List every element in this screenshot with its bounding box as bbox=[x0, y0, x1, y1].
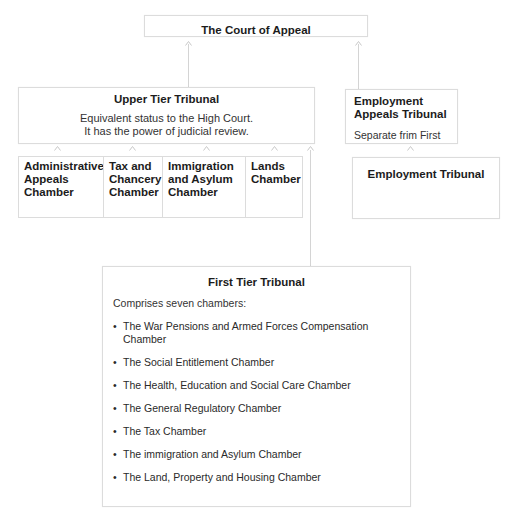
employment-appeals-tribunal-box: Employment Appeals Tribunal Separate fri… bbox=[345, 89, 458, 144]
connector-employment-appeals-to-court bbox=[358, 44, 359, 89]
list-item-text: The Tax Chamber bbox=[123, 425, 400, 438]
list-item-text: The immigration and Asylum Chamber bbox=[123, 448, 400, 461]
chamber-label-line: Administrative bbox=[24, 160, 103, 173]
list-item: • The Tax Chamber bbox=[113, 425, 400, 438]
employment-appeals-note: Separate frim First bbox=[354, 129, 457, 141]
chamber-label-line: Lands bbox=[251, 160, 302, 173]
chamber-label-line: Tax and bbox=[109, 160, 162, 173]
chamber-label-line: and Asylum bbox=[168, 173, 245, 186]
arrow-up-icon bbox=[203, 146, 210, 151]
chamber-administrative-appeals: Administrative Appeals Chamber bbox=[18, 156, 104, 218]
court-of-appeal-title: The Court of Appeal bbox=[201, 24, 310, 36]
arrow-up-icon bbox=[129, 146, 136, 151]
list-item: • The immigration and Asylum Chamber bbox=[113, 448, 400, 461]
bullet-icon: • bbox=[113, 320, 117, 333]
first-tier-intro: Comprises seven chambers: bbox=[113, 297, 400, 309]
employment-appeals-title-line1: Employment bbox=[354, 95, 457, 108]
bullet-icon: • bbox=[113, 471, 117, 484]
list-item: • The Social Entitlement Chamber bbox=[113, 356, 400, 369]
chamber-label-line: Chamber bbox=[168, 186, 245, 199]
arrow-up-icon bbox=[407, 146, 414, 151]
list-item: • The War Pensions and Armed Forces Comp… bbox=[113, 320, 400, 346]
chamber-label-line: Appeals bbox=[24, 173, 103, 186]
list-item-text: The Health, Education and Social Care Ch… bbox=[123, 379, 400, 392]
chamber-label-line: Immigration bbox=[168, 160, 245, 173]
chamber-label-line: Chancery bbox=[109, 173, 162, 186]
employment-tribunal-title: Employment Tribunal bbox=[368, 168, 485, 180]
upper-tier-tribunal-box: Upper Tier Tribunal Equivalent status to… bbox=[18, 87, 315, 144]
list-item: • The General Regulatory Chamber bbox=[113, 402, 400, 415]
list-item-text: The War Pensions and Armed Forces Compen… bbox=[123, 320, 400, 333]
list-item-text: The General Regulatory Chamber bbox=[123, 402, 400, 415]
bullet-icon: • bbox=[113, 356, 117, 369]
arrow-up-icon bbox=[355, 41, 362, 46]
chamber-immigration-and-asylum: Immigration and Asylum Chamber bbox=[162, 156, 246, 218]
chamber-lands: Lands Chamber bbox=[245, 156, 303, 218]
connector-upper-to-court bbox=[188, 44, 189, 87]
upper-tier-description-line1: Equivalent status to the High Court. bbox=[19, 112, 314, 125]
first-tier-chamber-list: • The War Pensions and Armed Forces Comp… bbox=[113, 320, 400, 484]
bullet-icon: • bbox=[113, 448, 117, 461]
upper-tier-title: Upper Tier Tribunal bbox=[19, 93, 314, 105]
arrow-up-icon bbox=[185, 41, 192, 46]
first-tier-tribunal-box: First Tier Tribunal Comprises seven cham… bbox=[102, 266, 411, 507]
list-item: • The Land, Property and Housing Chamber bbox=[113, 471, 400, 484]
upper-tier-description-line2: It has the power of judicial review. bbox=[19, 125, 314, 138]
chamber-label-line: Chamber bbox=[24, 186, 103, 199]
arrow-up-icon bbox=[307, 146, 314, 151]
employment-appeals-title-line2: Appeals Tribunal bbox=[354, 108, 457, 121]
bullet-icon: • bbox=[113, 402, 117, 415]
list-item-text: The Social Entitlement Chamber bbox=[123, 356, 400, 369]
list-item: • The Health, Education and Social Care … bbox=[113, 379, 400, 392]
employment-tribunal-box: Employment Tribunal bbox=[352, 157, 500, 219]
arrow-up-icon bbox=[271, 146, 278, 151]
list-item-text: Chamber bbox=[123, 333, 400, 346]
bullet-icon: • bbox=[113, 379, 117, 392]
list-item-text: The Land, Property and Housing Chamber bbox=[123, 471, 400, 484]
first-tier-title: First Tier Tribunal bbox=[113, 276, 400, 288]
chamber-label-line: Chamber bbox=[109, 186, 162, 199]
arrow-up-icon bbox=[54, 146, 61, 151]
connector-first-tier-to-upper bbox=[310, 150, 311, 266]
chamber-label-line: Chamber bbox=[251, 173, 302, 186]
court-of-appeal-box: The Court of Appeal bbox=[144, 15, 368, 37]
bullet-icon: • bbox=[113, 425, 117, 438]
chamber-tax-and-chancery: Tax and Chancery Chamber bbox=[103, 156, 163, 218]
